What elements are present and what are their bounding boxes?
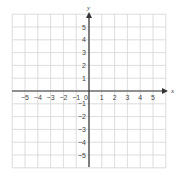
y-tick-label: −1	[78, 100, 86, 107]
x-axis-label: x	[170, 87, 175, 95]
y-tick-label: −2	[78, 113, 86, 120]
y-tick-label: 5	[82, 24, 86, 31]
y-tick-label: 4	[82, 36, 86, 43]
x-tick-label: −2	[59, 94, 67, 101]
x-tick-label: −5	[21, 94, 29, 101]
y-tick-label: −3	[78, 126, 86, 133]
y-tick-label: 3	[82, 49, 86, 56]
x-tick-label: 5	[151, 94, 155, 101]
y-tick-label: 1	[82, 75, 86, 82]
x-axis-arrow-icon	[162, 88, 168, 94]
x-tick-label: −3	[47, 94, 55, 101]
x-tick-labels: −5−4−3−2−112345	[21, 94, 155, 101]
x-tick-label: 4	[138, 94, 142, 101]
coordinate-plane: x y 0 −5−4−3−2−112345 54321−1−2−3−4−5	[0, 0, 179, 178]
x-tick-label: 3	[125, 94, 129, 101]
x-tick-label: 2	[113, 94, 117, 101]
axes	[12, 12, 168, 167]
y-tick-label: −4	[78, 139, 86, 146]
x-tick-label: −4	[34, 94, 42, 101]
y-tick-label: −5	[78, 152, 86, 159]
y-axis-label: y	[86, 4, 91, 12]
y-tick-label: 2	[82, 62, 86, 69]
y-axis-arrow-icon	[86, 12, 92, 18]
x-tick-label: 1	[100, 94, 104, 101]
